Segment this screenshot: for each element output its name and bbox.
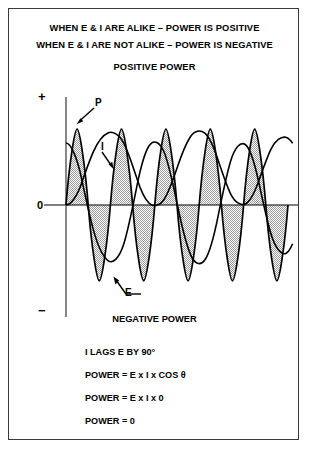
axis-zero-label: 0 — [37, 199, 43, 211]
equation-list: I LAGS E BY 90° POWER = E x I x COS θ PO… — [9, 347, 300, 439]
power-leader — [77, 108, 95, 124]
current-curve-label: I — [101, 141, 104, 152]
figure-frame: WHEN E & I ARE ALIKE – POWER IS POSITIVE… — [8, 8, 299, 440]
positive-power-label: POSITIVE POWER — [9, 62, 300, 72]
heading-line-2: WHEN E & I ARE NOT ALIKE – POWER IS NEGA… — [9, 40, 300, 50]
negative-power-label: NEGATIVE POWER — [9, 314, 300, 324]
waveform-svg — [9, 81, 300, 331]
current-leader — [102, 152, 114, 169]
equation-line: POWER = E x I x 0 — [9, 393, 300, 403]
equation-line: POWER = 0 — [9, 416, 300, 426]
power-curve-label: P — [95, 97, 102, 108]
equation-line: POWER = E x I x COS θ — [9, 370, 300, 380]
equation-line: I LAGS E BY 90° — [9, 347, 300, 357]
figure-page: WHEN E & I ARE ALIKE – POWER IS POSITIVE… — [0, 0, 314, 459]
heading-line-1: WHEN E & I ARE ALIKE – POWER IS POSITIVE — [9, 23, 300, 33]
waveform-plot — [9, 81, 300, 331]
axis-plus-label: + — [38, 89, 46, 104]
voltage-curve-label: E — [125, 287, 132, 298]
